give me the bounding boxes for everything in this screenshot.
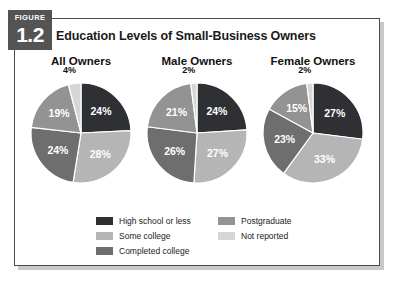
legend-label: Not reported	[241, 231, 288, 241]
legend-item: Completed college	[96, 244, 191, 258]
pie-slice-label: 21%	[166, 106, 188, 118]
legend-item: Some college	[96, 229, 191, 243]
pie-group-male-owners: Male Owners 24%27%26%21%2%	[138, 54, 256, 199]
legend-label: Completed college	[119, 246, 189, 256]
pie-slice-label: 33%	[314, 153, 336, 165]
figure-tab-word: FIGURE	[8, 12, 52, 23]
pie-slice-label: 27%	[207, 147, 229, 159]
pie-slice-label: 28%	[90, 148, 112, 160]
pie-chart-all-owners: 24%28%24%19%4%	[22, 71, 140, 199]
legend-swatch	[218, 232, 235, 240]
charts-area: All Owners 24%28%24%19%4% Male Owners 24…	[14, 54, 380, 204]
pie-slice-label-outside: 2%	[291, 65, 319, 75]
legend: High school or lessSome collegeCompleted…	[96, 214, 336, 260]
pie-slice-label: 24%	[47, 144, 69, 156]
legend-swatch	[218, 217, 235, 225]
pie-svg: 27%33%23%15%	[254, 71, 372, 199]
legend-swatch	[96, 217, 113, 225]
pie-slice-label: 24%	[206, 105, 228, 117]
pie-chart-male-owners: 24%27%26%21%2%	[138, 71, 256, 199]
pie-group-all-owners: All Owners 24%28%24%19%4%	[22, 54, 140, 199]
pie-slice-label-outside: 4%	[56, 65, 84, 75]
legend-label: Postgraduate	[241, 216, 292, 226]
figure-container: FIGURE 1.2 Education Levels of Small-Bus…	[0, 0, 395, 283]
pie-slice-label: 19%	[49, 107, 71, 119]
legend-swatch	[96, 247, 113, 255]
pie-svg: 24%27%26%21%	[138, 71, 256, 199]
pie-slice-label: 27%	[324, 107, 346, 119]
legend-item: High school or less	[96, 214, 191, 228]
pie-svg: 24%28%24%19%	[22, 71, 140, 199]
pie-slice-label-outside: 2%	[175, 65, 203, 75]
pie-slice-label: 23%	[274, 133, 296, 145]
legend-item: Not reported	[218, 229, 292, 243]
legend-item: Postgraduate	[218, 214, 292, 228]
title-bar: Education Levels of Small-Business Owner…	[56, 26, 366, 48]
legend-swatch	[96, 232, 113, 240]
page-title: Education Levels of Small-Business Owner…	[56, 26, 366, 46]
legend-label: Some college	[119, 231, 171, 241]
legend-column-left: High school or lessSome collegeCompleted…	[96, 214, 191, 259]
pie-slice-label: 24%	[90, 105, 112, 117]
legend-label: High school or less	[119, 216, 191, 226]
pie-slice-label: 15%	[286, 102, 308, 114]
pie-slice-label: 26%	[164, 145, 186, 157]
pie-group-female-owners: Female Owners 27%33%23%15%2%	[254, 54, 372, 199]
pie-chart-female-owners: 27%33%23%15%2%	[254, 71, 372, 199]
legend-column-right: PostgraduateNot reported	[218, 214, 292, 244]
figure-tab-number: 1.2	[8, 23, 52, 46]
figure-number-tab: FIGURE 1.2	[8, 10, 52, 50]
